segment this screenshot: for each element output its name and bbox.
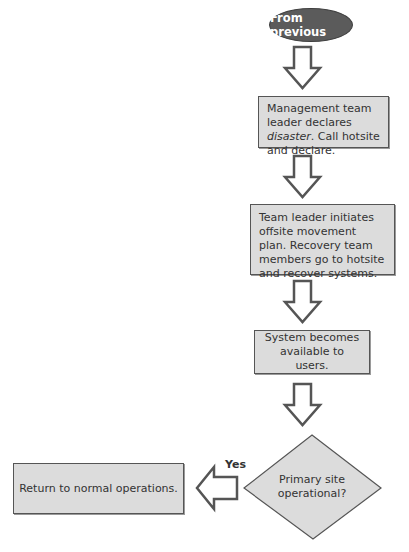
down-arrow-icon [285,281,320,322]
step-text: Management team leader declares [267,102,372,129]
process-box-declare-disaster: Management team leader declares disaster… [258,96,389,148]
process-box-offsite-movement: Team leader initiates offsite movement p… [250,204,395,275]
down-arrow-icon [285,156,320,197]
decision-question: Primary site operational? [262,473,362,501]
step-text: Team leader initiates offsite movement p… [259,211,384,280]
down-arrow-icon [285,47,320,88]
yes-label: Yes [225,458,246,471]
step-text: System becomes available to users. [264,331,360,373]
left-arrow-icon [197,467,237,509]
process-box-return-normal: Return to normal operations. [13,463,184,514]
process-box-system-available: System becomes available to users. [254,330,370,374]
outcome-text: Return to normal operations. [19,482,178,496]
step-emphasis: disaster [267,130,311,143]
down-arrow-icon [285,384,320,425]
